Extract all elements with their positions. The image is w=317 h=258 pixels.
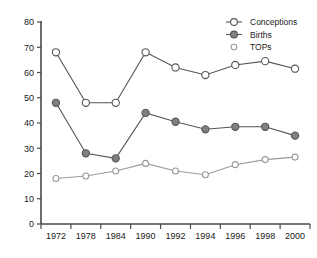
data-point <box>52 49 59 56</box>
data-point <box>142 109 149 116</box>
y-tick-label: 0 <box>29 219 34 229</box>
chart-legend: ConceptionsBirthsTOPs <box>226 17 297 52</box>
series-conceptions <box>52 49 298 107</box>
data-point <box>173 168 179 174</box>
x-axis: 197219781984199019921994199619982000 <box>41 224 310 241</box>
legend-label: Conceptions <box>250 17 297 27</box>
data-point <box>52 99 59 106</box>
y-tick-label: 30 <box>24 144 34 154</box>
series-births <box>52 99 298 162</box>
data-point <box>53 176 59 182</box>
data-point <box>82 99 89 106</box>
x-tick-label: 1992 <box>165 231 185 241</box>
x-tick-label: 1972 <box>46 231 66 241</box>
legend-marker-icon <box>231 31 238 38</box>
data-point <box>143 160 149 166</box>
data-point <box>172 118 179 125</box>
data-point <box>83 173 89 179</box>
series-line <box>56 103 295 159</box>
data-point <box>112 155 119 162</box>
data-series-group <box>52 49 298 182</box>
y-tick-label: 60 <box>24 68 34 78</box>
y-tick-label: 40 <box>24 118 34 128</box>
legend-marker-icon <box>231 19 238 26</box>
legend-item-conceptions[interactable]: Conceptions <box>226 17 297 27</box>
data-point <box>232 61 239 68</box>
data-point <box>262 157 268 163</box>
y-tick-label: 70 <box>24 43 34 53</box>
data-point <box>291 65 298 72</box>
data-point <box>82 150 89 157</box>
x-tick-label: 2000 <box>285 231 305 241</box>
legend-item-births[interactable]: Births <box>226 30 272 40</box>
data-point <box>202 126 209 133</box>
data-point <box>202 71 209 78</box>
x-tick-label: 1990 <box>136 231 156 241</box>
y-tick-label: 10 <box>24 194 34 204</box>
data-point <box>232 162 238 168</box>
legend-label: Births <box>250 30 272 40</box>
chart-canvas: 01020304050607080 1972197819841990199219… <box>0 0 317 258</box>
data-point <box>262 123 269 130</box>
data-point <box>292 154 298 160</box>
data-point <box>142 49 149 56</box>
y-axis: 01020304050607080 <box>24 17 41 229</box>
legend-label: TOPs <box>250 42 272 52</box>
data-point <box>172 64 179 71</box>
legend-item-tops[interactable]: TOPs <box>231 42 271 52</box>
x-tick-label: 1994 <box>195 231 215 241</box>
data-point <box>112 99 119 106</box>
x-tick-label: 1984 <box>106 231 126 241</box>
data-point <box>202 172 208 178</box>
series-tops <box>53 154 298 181</box>
data-point <box>262 58 269 65</box>
y-tick-label: 50 <box>24 93 34 103</box>
series-line <box>56 52 295 103</box>
data-point <box>291 132 298 139</box>
data-point <box>232 123 239 130</box>
legend-marker-icon <box>231 44 237 50</box>
line-chart: 01020304050607080 1972197819841990199219… <box>0 0 317 258</box>
x-tick-label: 1998 <box>255 231 275 241</box>
y-tick-label: 20 <box>24 169 34 179</box>
data-point <box>113 168 119 174</box>
x-tick-label: 1978 <box>76 231 96 241</box>
y-tick-label: 80 <box>24 17 34 27</box>
x-tick-label: 1996 <box>225 231 245 241</box>
